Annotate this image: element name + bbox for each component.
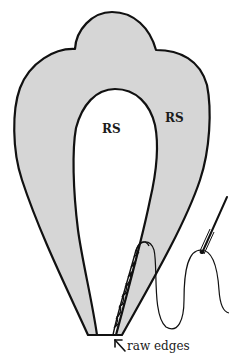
sewing-diagram: RS RS raw edges xyxy=(0,0,233,364)
outer-rs-label: RS xyxy=(165,112,184,124)
inner-rs-label: RS xyxy=(102,123,121,135)
raw-edges-caption: raw edges xyxy=(127,340,190,352)
needle-icon xyxy=(200,197,228,254)
arrow-up-left-icon xyxy=(115,340,125,351)
diagram-svg xyxy=(0,0,233,364)
